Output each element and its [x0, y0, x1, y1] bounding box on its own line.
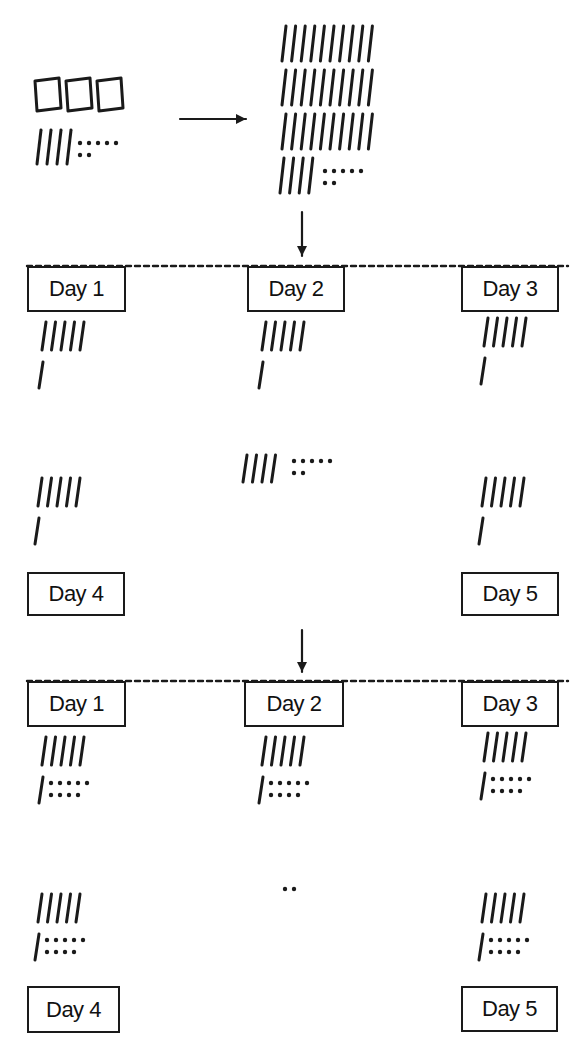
- ten-stick: [76, 894, 80, 922]
- ten-stick: [67, 478, 71, 506]
- day-box-1: Day 1: [27, 681, 126, 727]
- ten-stick: [511, 894, 515, 922]
- ten-stick: [290, 158, 294, 193]
- ten-stick: [340, 26, 344, 61]
- ones-dots: [78, 141, 118, 157]
- ten-stick: [71, 737, 75, 765]
- hundred-flat: [97, 78, 123, 111]
- ten-stick: [76, 478, 80, 506]
- ten-stick: [42, 737, 46, 765]
- ten-stick: [311, 114, 315, 149]
- ten-stick: [39, 777, 43, 803]
- ten-stick: [492, 478, 496, 506]
- ten-stick: [262, 322, 266, 350]
- ten-stick: [300, 322, 304, 350]
- ten-stick: [39, 362, 43, 388]
- ten-stick: [359, 114, 363, 149]
- ten-stick: [272, 322, 276, 350]
- ten-stick: [501, 478, 505, 506]
- ten-stick: [38, 478, 42, 506]
- ten-stick: [522, 733, 526, 761]
- tens-group: [35, 518, 39, 544]
- remainder: [283, 887, 296, 891]
- ten-stick: [513, 318, 517, 346]
- ten-stick: [349, 114, 353, 149]
- ten-stick: [311, 26, 315, 61]
- ten-stick: [511, 478, 515, 506]
- ten-stick: [292, 26, 296, 61]
- ten-stick: [320, 70, 324, 105]
- ten-stick: [320, 114, 324, 149]
- ten-stick: [262, 455, 266, 482]
- tens-group: [479, 518, 483, 544]
- day-box-4: Day 4: [27, 572, 125, 616]
- ones-dots: [283, 887, 296, 891]
- ten-stick: [309, 158, 313, 193]
- ten-stick: [48, 894, 52, 922]
- ten-stick: [501, 894, 505, 922]
- ten-stick: [301, 26, 305, 61]
- ten-stick: [359, 70, 363, 105]
- ten-stick: [484, 733, 488, 761]
- ones-dots: [45, 938, 85, 954]
- ten-stick: [42, 322, 46, 350]
- remainder: [243, 455, 332, 482]
- ten-stick: [282, 26, 286, 61]
- ones-dots: [49, 781, 89, 797]
- ten-stick: [330, 70, 334, 105]
- ten-stick: [292, 114, 296, 149]
- ten-stick: [48, 478, 52, 506]
- ten-stick: [330, 26, 334, 61]
- ten-stick: [359, 26, 363, 61]
- ten-stick: [503, 318, 507, 346]
- tens-group: [38, 894, 80, 922]
- ten-stick: [272, 455, 276, 482]
- ten-stick: [35, 518, 39, 544]
- hundred-flat: [66, 78, 92, 111]
- ten-stick: [61, 322, 65, 350]
- ten-stick: [80, 322, 84, 350]
- tens-group: [37, 130, 71, 164]
- day-box-4: Day 4: [27, 986, 120, 1033]
- ten-stick: [320, 26, 324, 61]
- ten-stick: [368, 70, 372, 105]
- hundred-flat: [35, 78, 61, 111]
- tens-group: [282, 70, 372, 105]
- tens-group: [282, 114, 372, 149]
- ten-stick: [272, 737, 276, 765]
- ten-stick: [494, 318, 498, 346]
- ten-stick: [481, 773, 485, 799]
- ten-stick: [71, 322, 75, 350]
- ten-stick: [349, 26, 353, 61]
- ten-stick: [299, 158, 303, 193]
- ten-stick: [37, 130, 41, 164]
- ones-dots: [491, 777, 531, 793]
- ten-stick: [330, 114, 334, 149]
- ten-stick: [301, 70, 305, 105]
- ten-stick: [52, 322, 56, 350]
- ten-stick: [259, 362, 263, 388]
- ten-stick: [482, 894, 486, 922]
- ten-stick: [243, 455, 247, 482]
- arrow-right-icon: [180, 114, 246, 124]
- tens-group: [39, 777, 43, 803]
- ten-stick: [492, 894, 496, 922]
- ones-dots: [292, 459, 332, 475]
- tens-group: [42, 322, 84, 350]
- ten-stick: [520, 478, 524, 506]
- tens-group: [262, 322, 304, 350]
- ten-stick: [481, 358, 485, 384]
- day-box-2: Day 2: [247, 266, 345, 312]
- day-box-5: Day 5: [461, 986, 558, 1032]
- tens-group: [259, 777, 263, 803]
- ten-stick: [300, 737, 304, 765]
- ten-stick: [38, 894, 42, 922]
- ten-stick: [281, 737, 285, 765]
- ten-stick: [368, 26, 372, 61]
- tens-group: [481, 773, 485, 799]
- ten-stick: [301, 114, 305, 149]
- ten-stick: [349, 70, 353, 105]
- ten-stick: [52, 737, 56, 765]
- ones-dots: [323, 169, 363, 185]
- tens-group: [259, 362, 263, 388]
